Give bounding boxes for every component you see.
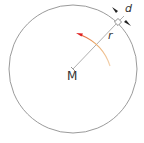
marker-triangle-lower-icon <box>124 20 131 26</box>
rotation-arc <box>81 35 110 66</box>
diagram: M r d <box>0 0 144 143</box>
center-label: M <box>67 70 77 82</box>
thickness-label: d <box>125 3 132 14</box>
radius-label: r <box>108 30 113 41</box>
marker-triangle-upper-icon <box>112 7 118 13</box>
radius-extension <box>120 16 124 20</box>
